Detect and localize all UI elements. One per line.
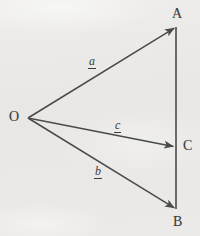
vector-label-b-glyph: b [94, 165, 102, 179]
point-label-c: C [183, 139, 192, 153]
vector-diagram-canvas [0, 0, 200, 236]
vector-label-a: a [88, 55, 96, 69]
vector-label-c: c [114, 119, 121, 133]
vector-label-b: b [94, 165, 102, 179]
vector-label-c-glyph: c [114, 119, 121, 133]
point-label-o: O [9, 110, 19, 124]
vector-label-a-glyph: a [88, 55, 96, 69]
vector-diagram-figure: O A C B a c b [0, 0, 200, 236]
point-label-b: B [173, 215, 182, 229]
vector-a-line [28, 28, 174, 118]
vector-b-line [28, 118, 174, 208]
point-label-a: A [172, 7, 182, 21]
